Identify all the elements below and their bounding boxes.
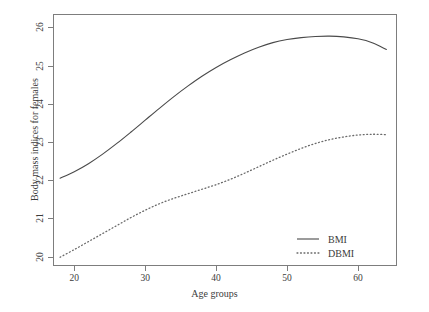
chart-legend: BMI DBMI <box>296 232 382 260</box>
x-tick-label: 20 <box>62 273 86 283</box>
x-tick-mark <box>145 266 146 271</box>
plot-area <box>53 14 397 266</box>
x-tick-label: 50 <box>275 273 299 283</box>
legend-item-bmi: BMI <box>296 232 382 246</box>
legend-label-dbmi: DBMI <box>320 248 354 259</box>
y-tick-label: 26 <box>35 20 45 34</box>
x-tick-mark <box>287 266 288 271</box>
x-tick-mark <box>74 266 75 271</box>
x-tick-mark <box>358 266 359 271</box>
y-tick-mark <box>48 66 53 67</box>
y-tick-label: 25 <box>35 59 45 73</box>
legend-key-solid-icon <box>296 234 320 244</box>
chart-figure: Body mass indices for females Age groups… <box>0 0 429 312</box>
y-tick-mark <box>48 218 53 219</box>
y-tick-label: 21 <box>35 211 45 225</box>
x-tick-label: 30 <box>133 273 157 283</box>
y-tick-mark <box>48 180 53 181</box>
bmi-line <box>60 36 386 178</box>
x-axis-title: Age groups <box>0 288 429 299</box>
y-tick-label: 23 <box>35 135 45 149</box>
x-tick-label: 60 <box>346 273 370 283</box>
legend-item-dbmi: DBMI <box>296 246 382 260</box>
y-tick-mark <box>48 104 53 105</box>
y-tick-label: 24 <box>35 97 45 111</box>
y-tick-mark <box>48 27 53 28</box>
y-tick-label: 20 <box>35 250 45 264</box>
legend-key-dotted-icon <box>296 248 320 258</box>
x-tick-mark <box>216 266 217 271</box>
legend-label-bmi: BMI <box>320 234 347 245</box>
y-tick-label: 22 <box>35 173 45 187</box>
y-tick-mark <box>48 142 53 143</box>
x-tick-label: 40 <box>204 273 228 283</box>
y-tick-mark <box>48 257 53 258</box>
